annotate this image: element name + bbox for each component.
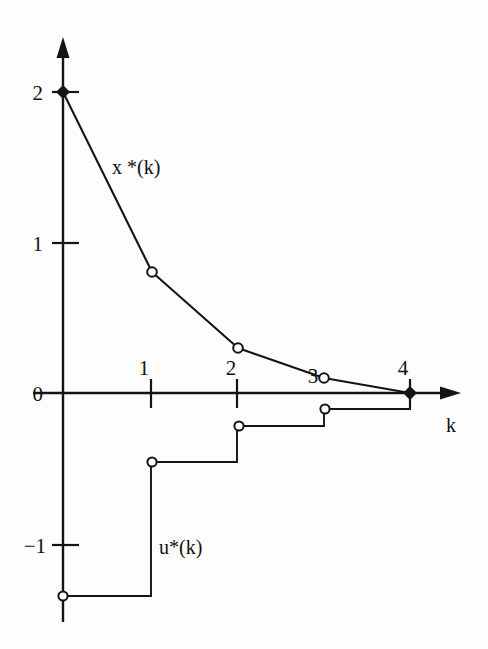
u-star-marker-k3 — [320, 404, 329, 413]
x-tick-label-4: 4 — [398, 356, 409, 380]
plot-svg: 1 2 3 4 2 1 0 −1 x *(k) u*(k) k — [0, 0, 488, 649]
figure-canvas: 1 2 3 4 2 1 0 −1 x *(k) u*(k) k — [0, 0, 488, 649]
u-star-marker-k2 — [234, 421, 243, 430]
axes-group — [33, 37, 461, 622]
u-star-marker-k0 — [58, 591, 67, 600]
series-x-star-k — [56, 85, 417, 400]
x-star-marker-k3 — [319, 373, 329, 383]
x-star-marker-k0-diamond — [56, 85, 70, 99]
y-axis-arrowhead — [57, 37, 70, 58]
y-tick-label-2: 2 — [33, 81, 44, 105]
x-star-series-label: x *(k) — [112, 156, 160, 179]
y-tick-label-1: 1 — [33, 232, 44, 256]
u-star-series-label: u*(k) — [159, 536, 202, 559]
u-star-marker-k1 — [147, 457, 156, 466]
x-axis-label: k — [446, 414, 456, 436]
x-axis-arrowhead — [440, 387, 461, 400]
series-u-star-k — [58, 393, 410, 601]
y-tick-label-minus-1: −1 — [24, 534, 46, 558]
x-tick-label-1: 1 — [139, 356, 150, 380]
y-tick-label-0: 0 — [33, 382, 44, 406]
x-star-marker-k4-diamond — [403, 386, 417, 400]
x-star-marker-k1 — [147, 267, 157, 277]
x-star-marker-k2 — [233, 343, 243, 353]
x-tick-label-2: 2 — [226, 356, 237, 380]
y-tick-marks — [52, 92, 79, 545]
